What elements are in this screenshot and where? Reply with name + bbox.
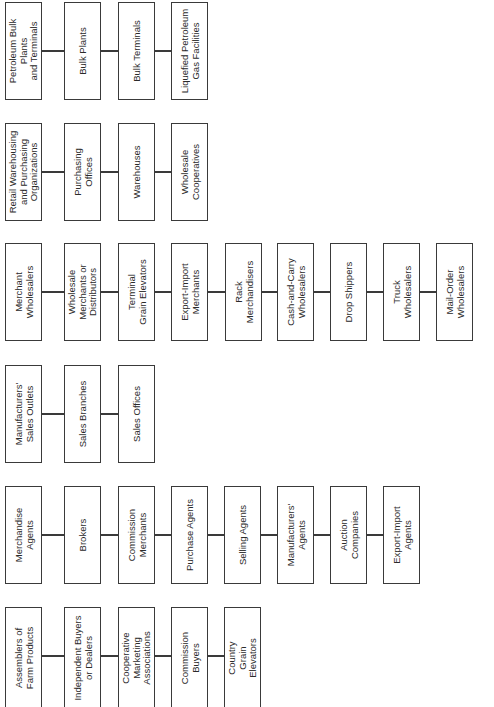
- connector-line: [101, 413, 118, 415]
- item-box: Manufacturers' Agents: [277, 486, 314, 584]
- item-box: Brokers: [64, 486, 101, 584]
- item-box: Selling Agents: [224, 486, 261, 584]
- box-label: Sales Offices: [131, 367, 142, 461]
- box-label: Country Grain Elevators: [227, 611, 259, 705]
- item-box: Purchase Agents: [171, 486, 208, 584]
- box-label: Sales Branches: [77, 367, 88, 461]
- box-label: Assemblers of Farm Products: [13, 611, 34, 705]
- connector-line: [155, 655, 171, 657]
- connector-line: [101, 171, 118, 173]
- box-label: Purchasing Offices: [72, 125, 93, 219]
- item-box: Export-Import Agents: [383, 486, 420, 584]
- box-label: Retail Warehousing and Purchasing Organi…: [8, 125, 40, 219]
- box-label: Commission Merchants: [126, 488, 147, 582]
- item-box: Export-Import Merchants: [171, 243, 208, 341]
- box-label: Warehouses: [131, 125, 142, 219]
- box-label: Liquefied Petroleum Gas Facilities: [179, 4, 200, 98]
- header-box: Merchandise Agents: [5, 486, 42, 584]
- connector-line: [262, 291, 277, 293]
- connector-line: [42, 291, 64, 293]
- header-box: Merchant Wholesalers: [5, 243, 42, 341]
- item-box: Cash-and-Carry Wholesalers: [277, 243, 314, 341]
- connector-line: [101, 534, 118, 536]
- connector-line: [314, 534, 330, 536]
- connector-line: [314, 291, 330, 293]
- header-box: Retail Warehousing and Purchasing Organi…: [5, 123, 42, 221]
- item-box: Wholesale Cooperatives: [171, 123, 208, 221]
- connector-line: [367, 291, 383, 293]
- item-box: Sales Offices: [118, 365, 155, 463]
- box-label: Rack Merchandisers: [233, 245, 254, 339]
- item-box: Country Grain Elevators: [224, 607, 261, 707]
- header-box: Assemblers of Farm Products: [5, 607, 42, 707]
- connector-line: [155, 50, 171, 52]
- item-box: Sales Branches: [64, 365, 101, 463]
- group-merchandise-agents: Merchandise Agents Brokers Commission Me…: [0, 486, 494, 584]
- box-label: Purchase Agents: [184, 488, 195, 582]
- item-box: Bulk Plants: [64, 2, 101, 100]
- box-label: Wholesale Merchants or Distributors: [67, 245, 99, 339]
- box-label: Selling Agents: [237, 488, 248, 582]
- box-label: Truck Wholesalers: [391, 245, 412, 339]
- box-label: Manufacturers' Agents: [285, 488, 306, 582]
- group-manufacturers-sales-outlets: Manufacturers' Sales Outlets Sales Branc…: [0, 365, 494, 463]
- connector-line: [367, 534, 383, 536]
- box-label: Brokers: [77, 488, 88, 582]
- item-box: Mail-Order Wholesalers: [436, 243, 473, 341]
- connector-line: [101, 655, 118, 657]
- box-label: Bulk Terminals: [131, 4, 142, 98]
- item-box: Independent Buyers or Dealers: [64, 607, 101, 707]
- item-box: Wholesale Merchants or Distributors: [64, 243, 101, 341]
- connector-line: [420, 291, 436, 293]
- item-box: Drop Shippers: [330, 243, 367, 341]
- box-label: Petroleum Bulk Plants and Terminals: [8, 4, 40, 98]
- group-assemblers-farm-products: Assemblers of Farm Products Independent …: [0, 607, 494, 705]
- group-petroleum-bulk-plants: Petroleum Bulk Plants and Terminals Bulk…: [0, 2, 494, 100]
- box-label: Mail-Order Wholesalers: [444, 245, 465, 339]
- connector-line: [42, 50, 64, 52]
- connector-line: [155, 534, 171, 536]
- item-box: Purchasing Offices: [64, 123, 101, 221]
- connector-line: [208, 534, 224, 536]
- item-box: Auction Companies: [330, 486, 367, 584]
- connector-line: [101, 291, 118, 293]
- item-box: Terminal Grain Elevators: [118, 243, 155, 341]
- box-label: Manufacturers' Sales Outlets: [13, 367, 34, 461]
- connector-line: [42, 171, 64, 173]
- item-box: Commission Buyers: [171, 607, 208, 707]
- connector-line: [208, 655, 224, 657]
- box-label: Export-Import Merchants: [179, 245, 200, 339]
- box-label: Independent Buyers or Dealers: [72, 611, 93, 705]
- box-label: Export-Import Agents: [391, 488, 412, 582]
- group-retail-warehousing: Retail Warehousing and Purchasing Organi…: [0, 123, 494, 221]
- connector-line: [155, 171, 171, 173]
- box-label: Cash-and-Carry Wholesalers: [285, 245, 306, 339]
- box-label: Bulk Plants: [77, 4, 88, 98]
- item-box: Warehouses: [118, 123, 155, 221]
- box-label: Wholesale Cooperatives: [179, 125, 200, 219]
- box-label: Cooperative Marketing Associations: [121, 611, 153, 705]
- connector-line: [42, 534, 64, 536]
- box-label: Commission Buyers: [179, 611, 200, 705]
- item-box: Bulk Terminals: [118, 2, 155, 100]
- item-box: Cooperative Marketing Associations: [118, 607, 155, 707]
- item-box: Rack Merchandisers: [225, 243, 262, 341]
- item-box: Commission Merchants: [118, 486, 155, 584]
- box-label: Auction Companies: [338, 488, 359, 582]
- group-merchant-wholesalers: Merchant Wholesalers Wholesale Merchants…: [0, 243, 494, 341]
- connector-line: [42, 655, 64, 657]
- item-box: Truck Wholesalers: [383, 243, 420, 341]
- box-label: Merchant Wholesalers: [13, 245, 34, 339]
- box-label: Terminal Grain Elevators: [126, 245, 147, 339]
- connector-line: [101, 50, 118, 52]
- connector-line: [155, 291, 171, 293]
- header-box: Manufacturers' Sales Outlets: [5, 365, 42, 463]
- item-box: Liquefied Petroleum Gas Facilities: [171, 2, 208, 100]
- header-box: Petroleum Bulk Plants and Terminals: [5, 2, 42, 100]
- box-label: Drop Shippers: [343, 245, 354, 339]
- connector-line: [42, 413, 64, 415]
- connector-line: [208, 291, 225, 293]
- connector-line: [261, 534, 277, 536]
- box-label: Merchandise Agents: [13, 488, 34, 582]
